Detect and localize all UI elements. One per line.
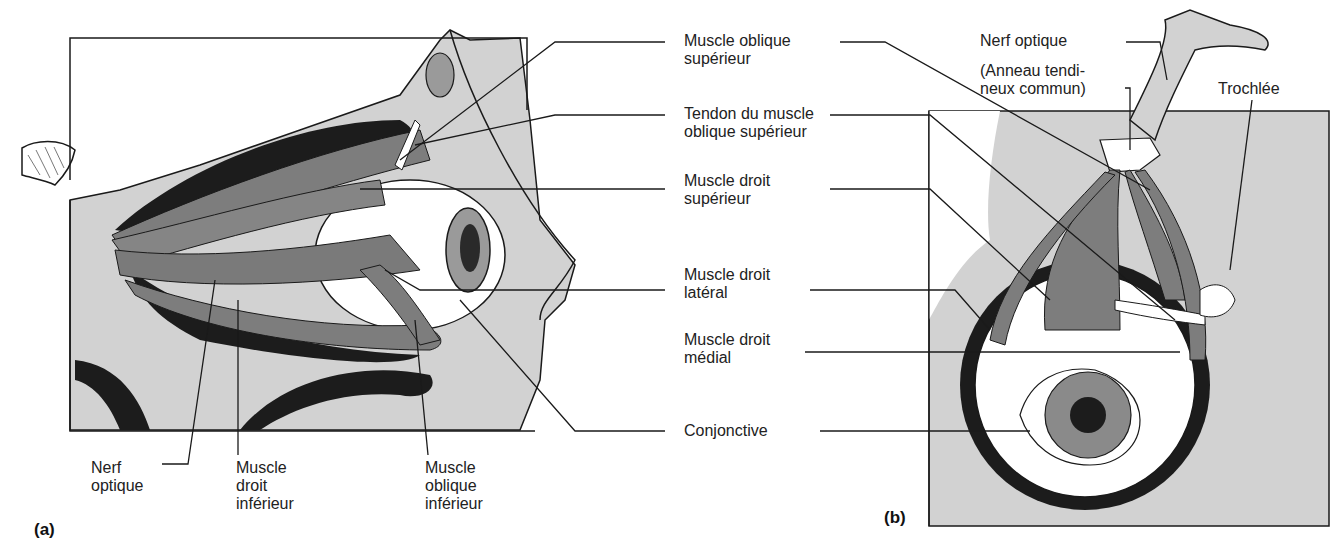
panel-tag-b: (b) — [884, 508, 906, 528]
label-line: Muscle — [425, 459, 483, 477]
panel-tag-a: (a) — [34, 520, 55, 540]
label-line: neux commun) — [980, 80, 1086, 98]
label-line: Muscle droit — [684, 172, 770, 190]
label-superior-oblique-muscle: Muscle oblique supérieur — [684, 32, 791, 68]
label-line: Tendon du muscle — [684, 105, 814, 123]
label-common-tendinous-ring: (Anneau tendi- neux commun) — [980, 62, 1086, 98]
label-line: droit — [236, 477, 294, 495]
label-line: Nerf optique — [980, 32, 1067, 50]
label-superior-oblique-tendon: Tendon du muscle oblique supérieur — [684, 105, 814, 141]
label-superior-rectus: Muscle droit supérieur — [684, 172, 770, 208]
label-line: supérieur — [684, 190, 770, 208]
label-line: inférieur — [425, 495, 483, 513]
label-medial-rectus: Muscle droit médial — [684, 331, 770, 367]
label-line: supérieur — [684, 50, 791, 68]
label-line: Muscle droit — [684, 331, 770, 349]
label-line: (Anneau tendi- — [980, 62, 1086, 80]
label-line: optique — [91, 477, 144, 495]
label-conjunctiva: Conjonctive — [684, 422, 768, 440]
label-inferior-oblique: Muscle oblique inférieur — [425, 459, 483, 513]
label-inferior-rectus: Muscle droit inférieur — [236, 459, 294, 513]
label-lateral-rectus: Muscle droit latéral — [684, 266, 770, 302]
label-optic-nerve-a: Nerf optique — [91, 459, 144, 495]
anatomy-illustration — [0, 0, 1342, 557]
label-line: oblique supérieur — [684, 123, 814, 141]
label-trochlea: Trochlée — [1218, 80, 1280, 98]
label-line: Conjonctive — [684, 422, 768, 440]
label-line: médial — [684, 349, 770, 367]
label-line: Muscle droit — [684, 266, 770, 284]
label-line: Muscle oblique — [684, 32, 791, 50]
label-line: inférieur — [236, 495, 294, 513]
label-line: Muscle — [236, 459, 294, 477]
label-line: Nerf — [91, 459, 144, 477]
label-optic-nerve-b: Nerf optique — [980, 32, 1067, 50]
label-line: Trochlée — [1218, 80, 1280, 98]
label-line: latéral — [684, 284, 770, 302]
label-line: oblique — [425, 477, 483, 495]
